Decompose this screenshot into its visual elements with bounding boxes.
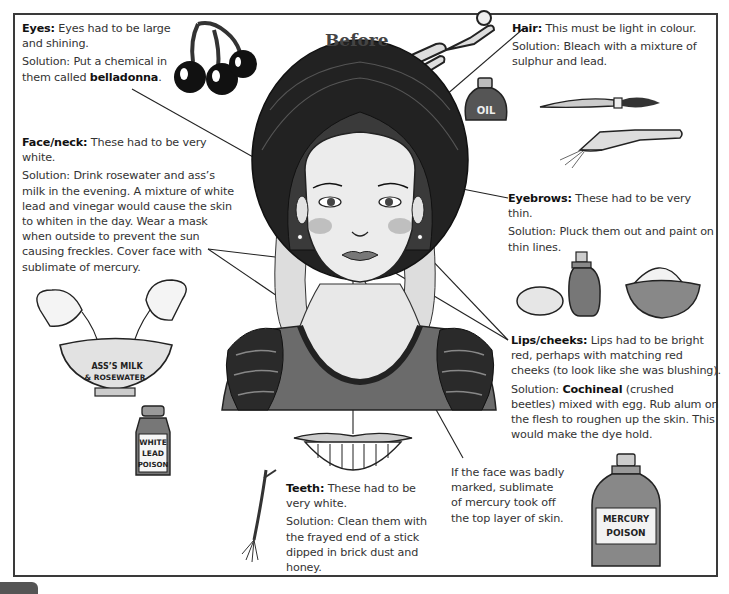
eyebrows-heading: Eyebrows: xyxy=(508,192,572,205)
milk-bowl-icon: ASS’S MILK & ROSEWATER xyxy=(37,280,186,396)
teeth-annotation: Teeth: These had to be very white. Solut… xyxy=(286,481,436,578)
hair-solution: Solution: Bleach with a mixture of sulph… xyxy=(512,39,712,69)
oil-bottle-icon: OIL xyxy=(465,78,507,120)
lips-cheeks-solution-bold: Cochineal xyxy=(562,383,622,396)
teeth-solution: Solution: Clean them with the frayed end… xyxy=(286,514,436,575)
page-title: Before xyxy=(325,30,389,50)
tweezers-icon xyxy=(560,130,682,168)
eyes-solution-suffix: . xyxy=(158,71,161,84)
face-neck-heading: Face/neck: xyxy=(22,136,87,149)
lips-cheeks-heading: Lips/cheeks: xyxy=(511,334,587,347)
eyes-solution-bold: belladonna xyxy=(90,71,159,84)
teeth-illustration xyxy=(294,433,412,470)
stone-icon xyxy=(517,287,563,315)
frayed-stick-icon xyxy=(242,470,276,562)
white-lead-label-line1: WHITE xyxy=(139,438,167,447)
egg-powder-bowl-icon xyxy=(626,268,700,318)
hair-annotation: Hair: This must be light in colour. Solu… xyxy=(512,21,712,73)
face-neck-solution: Solution: Drink rosewater and ass’s milk… xyxy=(22,168,237,274)
white-lead-label-line3: POISON xyxy=(138,461,169,469)
face-neck-annotation: Face/neck: These had to be very white. S… xyxy=(22,135,237,278)
teeth-heading: Teeth: xyxy=(286,482,324,495)
hair-description: This must be light in colour. xyxy=(545,22,696,35)
mercury-label-line1: MERCURY xyxy=(603,514,650,524)
mercury-label-line2: POISON xyxy=(606,528,645,538)
bowl-label-line2: & ROSEWATER xyxy=(85,373,146,382)
cochineal-bottle-icon xyxy=(569,252,600,316)
white-lead-bottle-icon: WHITE LEAD POISON xyxy=(136,406,170,475)
belladonna-berries-icon xyxy=(174,23,257,95)
paint-brush-icon xyxy=(540,98,660,108)
eyes-heading: Eyes: xyxy=(22,22,55,35)
lips-cheeks-solution-prefix: Solution: xyxy=(511,383,562,396)
eyebrows-annotation: Eyebrows: These had to be very thin. Sol… xyxy=(508,191,718,258)
oil-label: OIL xyxy=(477,105,496,116)
hair-heading: Hair: xyxy=(512,22,542,35)
eyes-annotation: Eyes: Eyes had to be large and shining. … xyxy=(22,21,172,88)
eyebrows-solution: Solution: Pluck them out and paint on th… xyxy=(508,224,718,254)
white-lead-label-line2: LEAD xyxy=(142,449,164,458)
mercury-bottle-icon: MERCURY POISON xyxy=(592,454,660,566)
lips-cheeks-annotation: Lips/cheeks: Lips had to be bright red, … xyxy=(511,333,721,445)
mercury-note: If the face was badly marked, sublimate … xyxy=(451,465,566,526)
woman-figure-illustration xyxy=(222,40,496,410)
bowl-label-line1: ASS’S MILK xyxy=(91,362,143,371)
